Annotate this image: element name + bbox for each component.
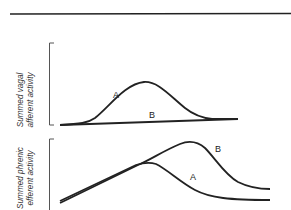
bottom-panel-ylabel-line1: Summed phrenic [16, 147, 25, 209]
top-rule [10, 14, 291, 15]
top-panel-ylabel-line2: afferent activity [26, 72, 35, 128]
bottom-curve-b-label: B [215, 144, 221, 154]
figure-canvas: Summed vagal afferent activity A B Summe… [0, 0, 291, 210]
bottom-panel-axis-bracket [50, 139, 55, 210]
top-panel-ylabel-line1: Summed vagal [16, 73, 25, 128]
bottom-curve-b [60, 142, 270, 203]
top-curve-b-label: B [149, 110, 155, 120]
top-panel: Summed vagal afferent activity A B [16, 43, 238, 128]
bottom-panel: Summed phrenic efferent activity B A [16, 139, 270, 210]
bottom-curve-a-label: A [190, 172, 196, 182]
bottom-panel-ylabel-line2: efferent activity [26, 150, 35, 206]
top-curve-a-label: A [113, 90, 119, 100]
top-panel-axis-bracket [50, 43, 55, 125]
